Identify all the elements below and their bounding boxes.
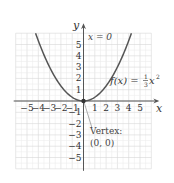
fraction-denominator: 3 bbox=[144, 81, 148, 88]
parabola-chart: −5−4−3−2−112345 −5−4−3−2−112345 y x x = … bbox=[0, 0, 174, 183]
vertex-label-line1: Vertex: bbox=[89, 126, 122, 136]
y-axis-label: y bbox=[72, 19, 80, 32]
axes bbox=[14, 23, 160, 171]
y-tick-label: 1 bbox=[76, 85, 82, 95]
vertex-label-line2: (0, 0) bbox=[90, 138, 114, 148]
x-tick-label: 2 bbox=[103, 103, 109, 113]
y-tick-label: 2 bbox=[76, 73, 82, 83]
y-tick-label: 4 bbox=[76, 51, 82, 61]
x-tick-label: 1 bbox=[92, 103, 98, 113]
fraction-numerator: 1 bbox=[144, 73, 148, 80]
vertex-point bbox=[81, 99, 85, 103]
x-tick-label: 4 bbox=[126, 103, 132, 113]
y-tick-label: −2 bbox=[68, 119, 81, 129]
function-variable: x bbox=[149, 75, 155, 86]
symmetry-label: x = 0 bbox=[88, 32, 112, 42]
y-tick-label: 5 bbox=[76, 40, 82, 50]
y-tick-label: −4 bbox=[68, 141, 82, 151]
function-label: f(x) = 1 3 x 2 bbox=[109, 73, 160, 88]
x-tick-label: 3 bbox=[115, 103, 121, 113]
x-tick-label: 5 bbox=[137, 103, 143, 113]
x-tick-labels: −5−4−3−2−112345 bbox=[20, 103, 143, 113]
y-tick-label: −5 bbox=[68, 153, 82, 163]
y-tick-label: 3 bbox=[76, 62, 82, 72]
function-prefix: f(x) = bbox=[109, 75, 139, 86]
function-exponent: 2 bbox=[156, 73, 160, 80]
vertex-pointer-line bbox=[84, 102, 92, 128]
y-tick-label: −3 bbox=[68, 130, 82, 140]
y-tick-label: −1 bbox=[68, 107, 81, 117]
x-axis-label: x bbox=[156, 102, 163, 115]
